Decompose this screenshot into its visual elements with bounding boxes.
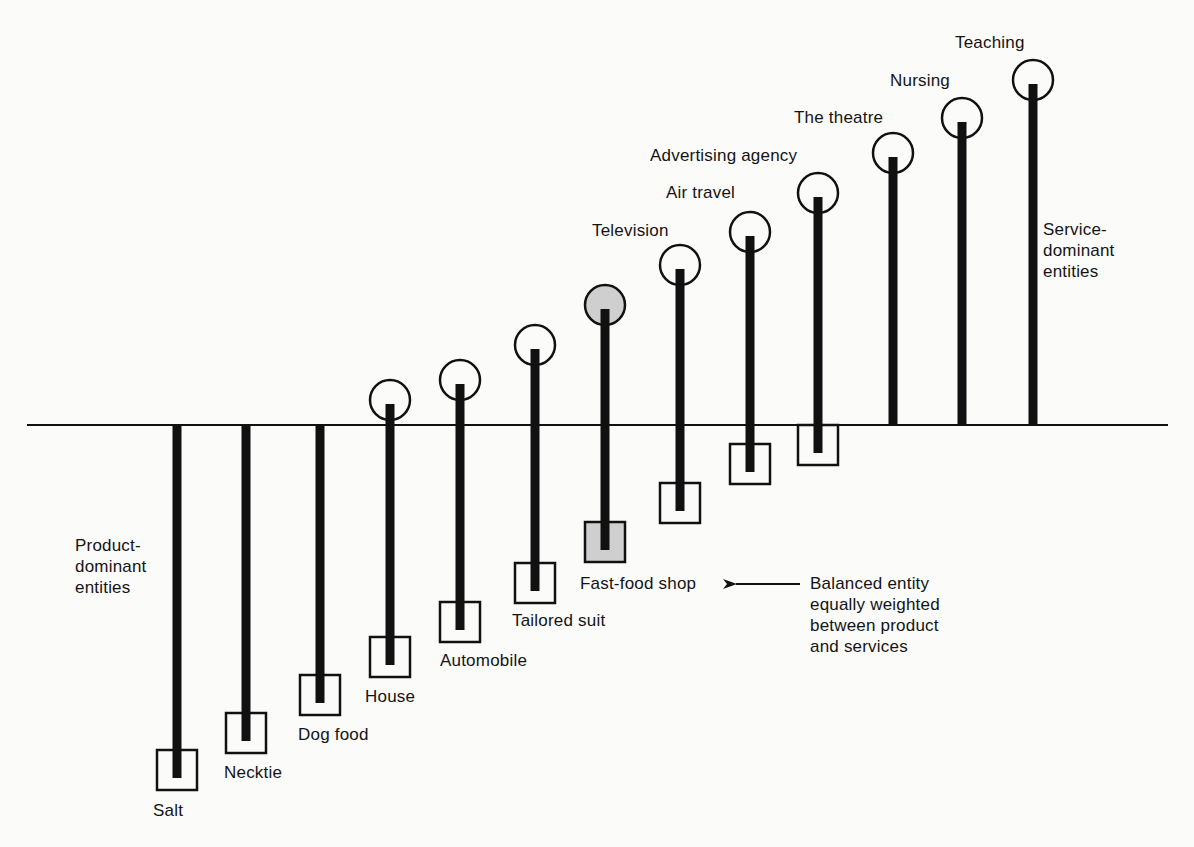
annotation-line: entities: [75, 577, 147, 598]
entity-bar: [958, 122, 967, 425]
entity-label: Nursing: [890, 70, 950, 91]
entity-bar: [676, 269, 685, 511]
annotation-line: between product: [810, 615, 940, 636]
entity-label: Advertising agency: [650, 145, 797, 166]
entity-label: Automobile: [440, 650, 527, 671]
entity-label: Teaching: [955, 32, 1025, 53]
entity-necktie: [226, 425, 266, 753]
entity-bar: [456, 384, 465, 630]
entity-bar: [889, 157, 898, 425]
entity-bar: [386, 404, 395, 665]
entity-label: Tailored suit: [512, 610, 605, 631]
annotation-line: Product-: [75, 535, 147, 556]
entity-bar: [746, 236, 755, 472]
entity-bar: [601, 309, 610, 550]
entity-label: The theatre: [794, 107, 883, 128]
entity-fast-food-shop: [585, 285, 625, 562]
entity-label: House: [365, 686, 415, 707]
annotation-line: equally weighted: [810, 594, 940, 615]
entity-dog-food: [300, 425, 340, 715]
entity-bar: [173, 425, 182, 778]
diagram-canvas: [0, 0, 1194, 847]
entity-nursing: [942, 98, 982, 425]
entity-label: Television: [592, 220, 669, 241]
entity-automobile: [440, 360, 480, 642]
balanced-entity-annotation: Balanced entity equally weighted between…: [810, 573, 940, 657]
entity-label: Air travel: [666, 182, 735, 203]
entity-tailored-suit: [515, 325, 555, 603]
entity-bar: [242, 425, 251, 741]
entity-bar: [531, 349, 540, 591]
annotation-line: Service-: [1043, 219, 1115, 240]
annotation-line: dominant: [1043, 240, 1115, 261]
entity-label: Dog food: [298, 724, 369, 745]
annotation-line: dominant: [75, 556, 147, 577]
product-dominant-annotation: Product- dominant entities: [75, 535, 147, 598]
entity-bar: [1029, 84, 1038, 425]
entity-salt: [157, 425, 197, 790]
entity-air-travel: [730, 212, 770, 484]
annotation-line: and services: [810, 636, 940, 657]
entity-advertising-agency: [798, 173, 838, 465]
entity-the-theatre: [873, 133, 913, 425]
entity-bar: [316, 425, 325, 703]
entity-television: [660, 245, 700, 523]
entity-bar: [814, 197, 823, 453]
annotation-line: entities: [1043, 261, 1115, 282]
entity-label: Necktie: [224, 762, 282, 783]
entity-label: Fast-food shop: [580, 573, 696, 594]
annotation-line: Balanced entity: [810, 573, 940, 594]
service-dominant-annotation: Service- dominant entities: [1043, 219, 1115, 282]
entity-label: Salt: [153, 800, 183, 821]
